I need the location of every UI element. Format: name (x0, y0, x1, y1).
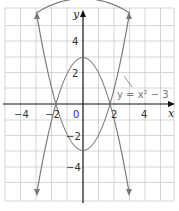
y-axis-label: y (72, 8, 80, 21)
y-tick: 4 (72, 36, 78, 47)
y-tick: 2 (72, 68, 78, 79)
y-axis-arrow-icon (80, 10, 86, 17)
chart: −4 −2 0 2 4 4 2 −2 −4 x y y = x² − 3 (0, 0, 179, 211)
arrow-icon (126, 12, 132, 19)
x-tick: 2 (111, 109, 117, 120)
curve-annotation: y = x² − 3 (117, 89, 169, 100)
annotation-leader (124, 76, 132, 87)
arrow-icon (34, 189, 40, 196)
x-tick: −4 (14, 109, 29, 120)
x-axis-label: x (168, 107, 175, 120)
arrow-icon (34, 12, 40, 19)
arrow-icon (126, 189, 132, 196)
x-tick: −2 (45, 109, 60, 120)
y-tick: −4 (66, 162, 81, 173)
y-tick: −2 (66, 131, 81, 142)
x-tick: 4 (141, 109, 147, 120)
origin-label: 0 (73, 109, 79, 120)
